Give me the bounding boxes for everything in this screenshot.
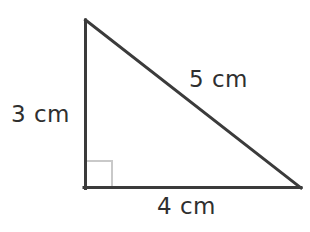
label-horizontal-leg-length: 4 cm [157, 195, 216, 218]
geometry-diagram: 3 cm 5 cm 4 cm [0, 0, 310, 232]
label-hypotenuse-length: 5 cm [189, 68, 248, 91]
label-vertical-leg-length: 3 cm [11, 103, 70, 126]
